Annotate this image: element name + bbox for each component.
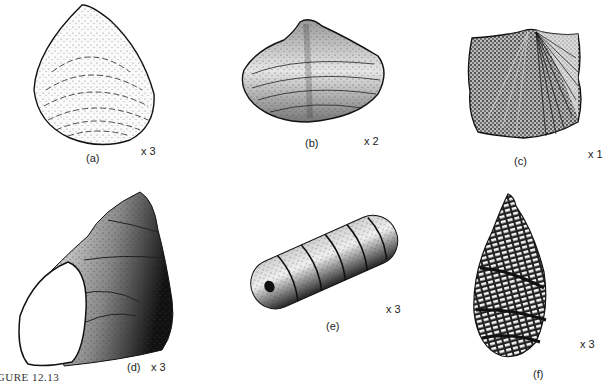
- panel-d-scale: x 3: [151, 361, 166, 373]
- panel-e-scale: x 3: [386, 303, 401, 315]
- panel-c-scale: x 1: [588, 148, 603, 160]
- panel-f-label: (f): [533, 368, 543, 380]
- panel-d-label: (d): [127, 361, 140, 373]
- panel-f-scale: x 3: [580, 338, 595, 350]
- fossil-e-illustration: [240, 202, 404, 320]
- fossil-a-illustration: [30, 2, 160, 147]
- panel-a-label: (a): [86, 152, 99, 164]
- figure-page: { "figure": { "caption": "FIGURE 12.13",…: [0, 0, 609, 384]
- fossil-b-illustration: [238, 18, 390, 124]
- panel-b-label: (b): [305, 137, 318, 149]
- fossil-d-illustration: [12, 190, 182, 368]
- figure-caption: FIGURE 12.13: [0, 371, 59, 383]
- panel-e-label: (e): [326, 320, 339, 332]
- fossil-f-illustration: [470, 192, 550, 360]
- panel-a-scale: x 3: [141, 145, 156, 157]
- fossil-c-illustration: [466, 28, 584, 140]
- panel-c-label: (c): [514, 155, 527, 167]
- panel-b-scale: x 2: [364, 135, 379, 147]
